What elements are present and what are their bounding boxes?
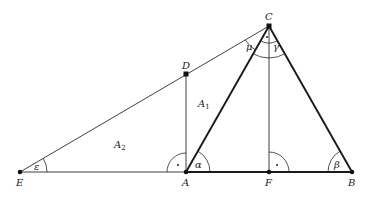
angle-arc-right-F — [269, 152, 289, 172]
segment-EC — [20, 26, 269, 172]
right-angle-dot-C — [266, 36, 268, 38]
label-area-A2: A2 — [113, 139, 126, 152]
label-C: C — [265, 11, 273, 22]
point-F — [267, 170, 272, 175]
point-A — [184, 170, 189, 175]
right-angle-dot-F — [276, 164, 278, 166]
label-angle-mu: μ — [246, 41, 253, 52]
label-F: F — [264, 177, 273, 188]
label-angle-beta: β — [333, 159, 340, 170]
label-angle-alpha: α — [195, 159, 202, 170]
segment-CB — [269, 26, 352, 172]
right-angle-dot-A — [177, 164, 179, 166]
label-area-A1: A1 — [197, 98, 210, 111]
label-angle-epsilon: ε — [34, 161, 39, 172]
label-D: D — [181, 60, 190, 71]
label-angle-gamma: γ — [273, 41, 279, 52]
angle-arc-right-A — [167, 153, 186, 172]
point-D — [184, 72, 189, 77]
point-E — [18, 170, 23, 175]
label-E: E — [15, 177, 24, 188]
label-A: A — [181, 177, 189, 188]
label-B: B — [347, 177, 355, 188]
point-B — [350, 170, 355, 175]
point-C — [267, 24, 272, 29]
angle-arc-epsilon — [43, 158, 47, 172]
geometry-diagram: E A F B C D A1 A2 ε α β γ μ — [0, 0, 367, 198]
